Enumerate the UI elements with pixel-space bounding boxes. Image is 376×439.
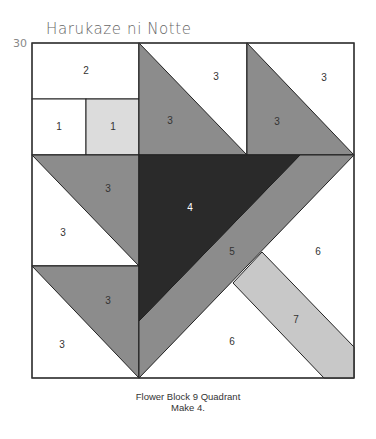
label-hst-top-mid-gray: 3 bbox=[167, 115, 173, 126]
label-hst-mid-left-white: 3 bbox=[60, 227, 66, 238]
label-piece-6-bottom: 6 bbox=[229, 336, 235, 347]
caption-line-2: Make 4. bbox=[0, 402, 376, 413]
label-hst-top-right-white: 3 bbox=[321, 72, 327, 83]
label-hst-top-right-gray: 3 bbox=[274, 116, 280, 127]
quilt-block-diagram: 2 1 1 3 3 3 3 3 3 3 3 4 5 6 6 7 bbox=[0, 0, 376, 439]
label-piece-2: 2 bbox=[83, 65, 89, 76]
label-piece-1-white: 1 bbox=[56, 121, 62, 132]
label-piece-7: 7 bbox=[293, 314, 299, 325]
label-piece-5: 5 bbox=[229, 246, 235, 257]
label-hst-bot-left-gray: 3 bbox=[105, 295, 111, 306]
label-hst-top-mid-white: 3 bbox=[213, 71, 219, 82]
label-piece-4: 4 bbox=[187, 202, 193, 213]
label-piece-6-right: 6 bbox=[315, 246, 321, 257]
diagram-caption: Flower Block 9 Quadrant Make 4. bbox=[0, 391, 376, 413]
caption-line-1: Flower Block 9 Quadrant bbox=[0, 391, 376, 402]
label-hst-bot-left-white: 3 bbox=[59, 339, 65, 350]
label-hst-mid-left-gray: 3 bbox=[105, 183, 111, 194]
label-piece-1-light: 1 bbox=[110, 121, 116, 132]
